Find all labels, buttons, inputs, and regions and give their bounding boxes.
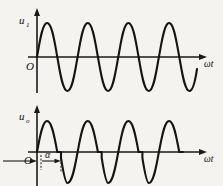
figure-container: u 1 O ωt u o O ωt <box>0 0 223 186</box>
lower-x-axis-label: ωt <box>204 154 214 164</box>
figure-background <box>0 0 223 186</box>
lower-y-axis-label: u <box>19 110 25 122</box>
upper-y-axis-label-subscript: 1 <box>26 21 30 29</box>
lower-y-axis-label-subscript: o <box>26 117 30 125</box>
waveform-figure: u 1 O ωt u o O ωt <box>0 0 223 186</box>
alpha-label: α <box>45 149 51 160</box>
upper-origin-label: O <box>26 60 34 72</box>
upper-y-axis-label: u <box>19 14 25 26</box>
upper-x-axis-label: ωt <box>204 59 214 69</box>
